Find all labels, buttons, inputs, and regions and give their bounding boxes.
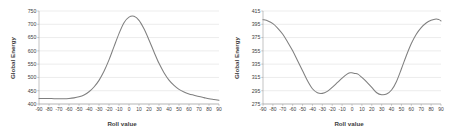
x-tick-label--90: -90	[259, 107, 266, 112]
x-tick-label--30: -30	[95, 107, 102, 112]
y-tick-label-335: 335	[252, 61, 261, 67]
x-tick-label-60: 60	[186, 107, 192, 112]
left-gridlines	[39, 11, 219, 104]
right-x-axis-title: Roll value	[334, 120, 364, 127]
x-tick-label--90: -90	[35, 107, 42, 112]
x-tick-label--50: -50	[299, 107, 306, 112]
right-y-tick-labels: 275295315335355375395415	[252, 8, 261, 107]
left-x-axis-title: Roll value	[107, 120, 137, 127]
x-tick-label-80: 80	[428, 107, 434, 112]
y-tick-label-450: 450	[28, 88, 37, 94]
x-tick-label-30: 30	[379, 107, 385, 112]
y-tick-label-750: 750	[28, 8, 37, 14]
left-y-axis-title: Global Energy	[9, 36, 16, 79]
x-tick-label--40: -40	[309, 107, 316, 112]
right-axis-spine	[261, 11, 441, 106]
x-tick-label--40: -40	[85, 107, 92, 112]
right-data-series	[263, 19, 441, 95]
x-tick-label-40: 40	[389, 107, 395, 112]
x-tick-label-70: 70	[418, 107, 424, 112]
x-tick-label-90: 90	[438, 107, 444, 112]
two-chart-figure: 400450500550600650700750 -90-80-70-60-50…	[0, 0, 450, 130]
left-axis-spine	[37, 11, 219, 106]
right-y-axis-title: Global Energy	[233, 36, 240, 79]
x-tick-label-60: 60	[409, 107, 415, 112]
x-tick-label-50: 50	[176, 107, 182, 112]
x-tick-label--60: -60	[289, 107, 296, 112]
x-tick-label-70: 70	[196, 107, 202, 112]
x-tick-label--20: -20	[105, 107, 112, 112]
y-tick-label-550: 550	[28, 61, 37, 67]
x-tick-label-0: 0	[128, 107, 131, 112]
y-tick-label-315: 315	[252, 74, 261, 80]
y-tick-label-375: 375	[252, 34, 261, 40]
x-tick-label-20: 20	[146, 107, 152, 112]
right-x-tick-labels: -90-80-70-60-50-40-30-20-100102030405060…	[259, 107, 444, 112]
x-tick-label--60: -60	[65, 107, 72, 112]
x-tick-label--50: -50	[75, 107, 82, 112]
chart-panel-left: 400450500550600650700750 -90-80-70-60-50…	[0, 0, 225, 130]
x-tick-label--80: -80	[45, 107, 52, 112]
x-tick-label--10: -10	[339, 107, 346, 112]
y-tick-label-600: 600	[28, 48, 37, 54]
x-tick-label-30: 30	[156, 107, 162, 112]
left-chart-svg: 400450500550600650700750 -90-80-70-60-50…	[0, 0, 225, 130]
y-tick-label-415: 415	[252, 8, 261, 14]
x-tick-label--10: -10	[115, 107, 122, 112]
x-tick-label--70: -70	[279, 107, 286, 112]
y-tick-label-275: 275	[252, 101, 261, 107]
x-tick-label-0: 0	[351, 107, 354, 112]
x-tick-label--70: -70	[55, 107, 62, 112]
chart-panel-right: 275295315335355375395415 -90-80-70-60-50…	[225, 0, 450, 130]
x-tick-label-10: 10	[136, 107, 142, 112]
x-tick-label-40: 40	[166, 107, 172, 112]
y-tick-label-395: 395	[252, 21, 261, 27]
y-tick-label-500: 500	[28, 74, 37, 80]
y-tick-label-650: 650	[28, 34, 37, 40]
y-tick-label-355: 355	[252, 48, 261, 54]
y-tick-label-700: 700	[28, 21, 37, 27]
x-tick-label-80: 80	[206, 107, 212, 112]
right-chart-svg: 275295315335355375395415 -90-80-70-60-50…	[225, 0, 450, 130]
left-y-tick-labels: 400450500550600650700750	[28, 8, 37, 107]
x-tick-label--80: -80	[269, 107, 276, 112]
right-gridlines	[263, 11, 441, 104]
x-tick-label--20: -20	[329, 107, 336, 112]
x-tick-label-90: 90	[216, 107, 222, 112]
left-x-tick-labels: -90-80-70-60-50-40-30-20-100102030405060…	[35, 107, 222, 112]
y-tick-label-295: 295	[252, 88, 261, 94]
x-tick-label-20: 20	[369, 107, 375, 112]
y-tick-label-400: 400	[28, 101, 37, 107]
x-tick-label-10: 10	[359, 107, 365, 112]
x-tick-label-50: 50	[399, 107, 405, 112]
left-data-series	[39, 16, 219, 100]
x-tick-label--30: -30	[319, 107, 326, 112]
